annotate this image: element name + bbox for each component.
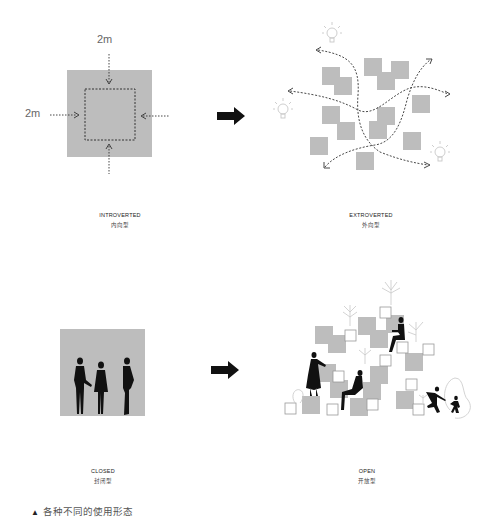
stacked-blocks bbox=[302, 315, 423, 416]
dimension-label-left: 2m bbox=[25, 107, 40, 119]
right-arrow-icon bbox=[217, 107, 247, 125]
person-silhouette-icon bbox=[426, 387, 446, 414]
extroverted-diagram bbox=[250, 0, 493, 190]
person-silhouette-icon bbox=[450, 396, 460, 413]
label-closed: CLOSED 封闭型 bbox=[43, 468, 163, 485]
label-zh: 外向型 bbox=[311, 221, 431, 229]
caption-text: 各种不同的使用形态 bbox=[43, 506, 133, 517]
dimension-label-top: 2m bbox=[97, 33, 112, 45]
label-extroverted: EXTROVERTED 外向型 bbox=[311, 212, 431, 229]
label-introverted: INTROVERTED 内向型 bbox=[60, 212, 180, 229]
lightbulb-icon bbox=[322, 22, 342, 42]
lightbulb-icon bbox=[273, 98, 293, 118]
dispersed-blocks bbox=[310, 58, 430, 170]
right-arrow-icon bbox=[211, 361, 241, 379]
label-en: INTROVERTED bbox=[60, 212, 180, 218]
label-zh: 开放型 bbox=[307, 477, 427, 485]
open-diagram bbox=[270, 260, 493, 430]
label-open: OPEN 开放型 bbox=[307, 468, 427, 485]
label-zh: 封闭型 bbox=[43, 477, 163, 485]
label-en: EXTROVERTED bbox=[311, 212, 431, 218]
triangle-marker-icon: ▲ bbox=[31, 508, 39, 517]
label-en: CLOSED bbox=[43, 468, 163, 474]
introverted-diagram bbox=[0, 0, 200, 190]
figure-caption: ▲各种不同的使用形态 bbox=[31, 504, 133, 518]
lightbulb-icon bbox=[430, 141, 450, 161]
label-zh: 内向型 bbox=[60, 221, 180, 229]
label-en: OPEN bbox=[307, 468, 427, 474]
closed-diagram bbox=[0, 260, 200, 460]
